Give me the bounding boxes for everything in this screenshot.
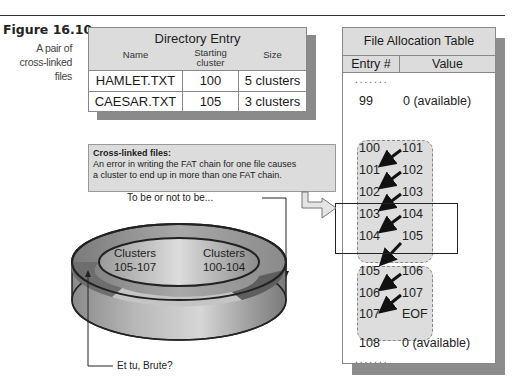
disc-right-line1: Clusters [189, 246, 259, 260]
disc-right-line2: 100-104 [189, 260, 259, 274]
disk-platter [71, 224, 286, 340]
block-arrow-icon [302, 192, 336, 218]
disc-label-left: Clusters 105-107 [100, 246, 170, 274]
disc-left-line1: Clusters [100, 246, 170, 260]
disc-label-right: Clusters 100-104 [189, 246, 259, 274]
connectors [0, 0, 521, 382]
annotation-et-tu: Et tu, Brute? [117, 360, 173, 371]
annotation-to-be: To be or not to be... [127, 192, 213, 203]
disc-left-line2: 105-107 [100, 260, 170, 274]
